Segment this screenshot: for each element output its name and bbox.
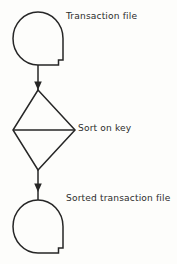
node-sort-on-key[interactable]: [13, 90, 75, 170]
arrowhead-down-icon: [34, 82, 42, 91]
magnetic-tape-icon-top: [13, 12, 63, 65]
connector-sort-to-tape: [34, 170, 42, 200]
node-label-sort-on-key: Sort on key: [78, 123, 131, 133]
magnetic-tape-icon-bottom: [13, 200, 63, 253]
node-sorted-transaction-file[interactable]: [13, 200, 63, 253]
flowchart-diagram: Transaction file Sort on key Sorted tran…: [0, 0, 177, 264]
connector-tape-to-sort: [34, 65, 42, 90]
node-transaction-file[interactable]: [13, 12, 63, 65]
node-label-sorted-transaction-file: Sorted transaction file: [66, 193, 170, 203]
arrowhead-down-icon: [34, 184, 42, 193]
node-label-transaction-file: Transaction file: [66, 11, 137, 21]
